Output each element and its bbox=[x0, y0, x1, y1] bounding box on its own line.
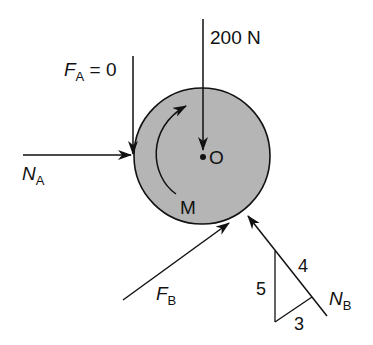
free-body-diagram: O M 200 N FA = 0 NA FB NB 5 4 3 bbox=[0, 0, 373, 345]
applied-load-label: 200 N bbox=[210, 27, 261, 48]
center-label: O bbox=[209, 147, 224, 168]
slope-label-base: 3 bbox=[294, 314, 304, 334]
friction-a-label: FA = 0 bbox=[64, 59, 117, 84]
normal-a-label: NA bbox=[22, 163, 45, 188]
friction-b-label: FB bbox=[156, 283, 176, 308]
moment-label: M bbox=[180, 197, 196, 218]
center-point-o bbox=[200, 154, 206, 160]
normal-b-label: NB bbox=[329, 288, 351, 313]
slope-label-hypotenuse: 4 bbox=[298, 256, 308, 276]
normal-b-arrow bbox=[248, 216, 327, 316]
slope-label-vertical: 5 bbox=[256, 279, 266, 299]
friction-b-arrow bbox=[123, 223, 229, 300]
